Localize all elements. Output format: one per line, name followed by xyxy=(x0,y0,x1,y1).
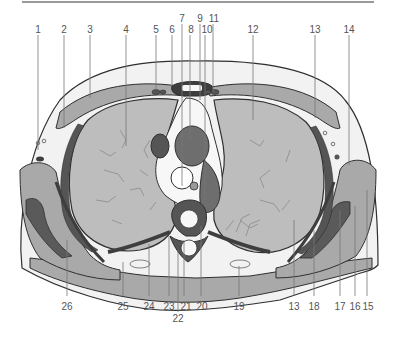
label-20: 20 xyxy=(196,301,208,312)
label-10: 10 xyxy=(201,24,213,35)
label-15: 15 xyxy=(362,301,374,312)
label-22: 22 xyxy=(172,313,184,324)
left-axillary-vessel xyxy=(36,157,44,162)
label-18: 18 xyxy=(308,301,320,312)
label-11: 11 xyxy=(209,13,220,24)
label-13-top: 13 xyxy=(309,24,321,35)
label-5: 5 xyxy=(153,24,159,35)
label-6: 6 xyxy=(169,24,175,35)
label-24: 24 xyxy=(143,301,155,312)
label-3: 3 xyxy=(87,24,93,35)
label-9: 9 xyxy=(197,13,203,24)
sternum-marrow xyxy=(182,85,202,91)
label-4: 4 xyxy=(123,24,129,35)
vertebral-body-inner xyxy=(180,210,198,228)
thorax-cross-section: 1 2 3 4 5 6 7 8 9 10 11 12 13 14 26 25 2… xyxy=(0,0,393,339)
superior-vena-cava xyxy=(151,134,169,158)
label-8: 8 xyxy=(188,24,194,35)
label-26: 26 xyxy=(61,301,73,312)
label-2: 2 xyxy=(61,24,67,35)
esophagus xyxy=(190,182,198,190)
left-posterior-structure xyxy=(130,260,150,268)
label-19: 19 xyxy=(233,301,245,312)
label-13-bottom: 13 xyxy=(288,301,300,312)
right-axillary-vessel xyxy=(335,155,340,160)
spinal-canal xyxy=(181,240,197,256)
label-12: 12 xyxy=(247,24,259,35)
label-14: 14 xyxy=(343,24,355,35)
label-7: 7 xyxy=(179,13,185,24)
right-posterior-structure xyxy=(230,260,250,268)
label-17: 17 xyxy=(334,301,346,312)
label-1: 1 xyxy=(35,24,41,35)
label-23: 23 xyxy=(163,301,175,312)
label-25: 25 xyxy=(117,301,129,312)
label-21: 21 xyxy=(180,301,192,312)
label-16: 16 xyxy=(349,301,361,312)
